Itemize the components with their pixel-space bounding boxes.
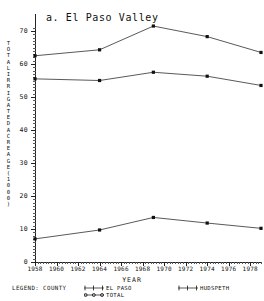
- legend-item-hudspeth: HUDSPETH: [178, 285, 229, 291]
- data-point-marker: [33, 237, 36, 240]
- series-line: [35, 26, 261, 56]
- data-point-marker: [152, 216, 155, 219]
- data-point-marker: [259, 227, 262, 230]
- data-point-marker: [33, 54, 36, 57]
- data-point-marker: [259, 51, 262, 54]
- data-point-marker: [98, 79, 101, 82]
- data-point-marker: [206, 75, 209, 78]
- plus-marker: [178, 285, 198, 291]
- legend-item-el-paso: EL PASO: [84, 285, 132, 291]
- legend: LEGEND: COUNTY EL PASO TOTAL: [0, 284, 264, 301]
- chart-figure: a. El Paso Valley TOTALIRRIGATEDACREAGE(…: [0, 0, 264, 301]
- data-point-marker: [259, 84, 262, 87]
- data-point-marker: [152, 24, 155, 27]
- legend-item-total: TOTAL: [84, 292, 124, 298]
- plus-marker: [84, 285, 104, 291]
- legend-label-total: TOTAL: [106, 292, 124, 298]
- data-point-marker: [33, 77, 36, 80]
- data-point-marker: [206, 35, 209, 38]
- series-hudspeth: [33, 216, 262, 241]
- x-axis-title: YEAR: [0, 276, 264, 284]
- series-layer: [0, 0, 264, 301]
- legend-label-el-paso: EL PASO: [106, 285, 132, 291]
- data-point-marker: [206, 221, 209, 224]
- data-point-marker: [98, 48, 101, 51]
- data-point-marker: [152, 71, 155, 74]
- series-total: [33, 24, 262, 57]
- circle-marker: [84, 292, 104, 298]
- legend-title: LEGEND: COUNTY: [12, 285, 66, 291]
- data-point-marker: [98, 228, 101, 231]
- series-el-paso: [33, 71, 262, 87]
- series-line: [35, 217, 261, 238]
- legend-label-hudspeth: HUDSPETH: [200, 285, 229, 291]
- series-line: [35, 72, 261, 85]
